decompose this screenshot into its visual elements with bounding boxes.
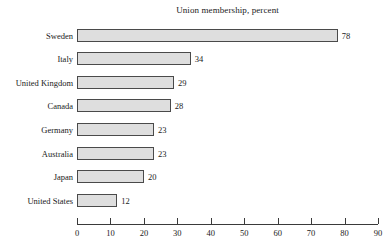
category-label-canada: Canada xyxy=(0,99,73,113)
bar-value-united-kingdom: 29 xyxy=(178,76,187,90)
bar-row: Sweden78 xyxy=(0,29,390,43)
category-label-italy: Italy xyxy=(0,52,73,66)
bar-value-sweden: 78 xyxy=(342,29,351,43)
bar-chart: Union membership, percent Sweden78Italy3… xyxy=(0,0,390,250)
bar-row: Italy34 xyxy=(0,52,390,66)
bar-united-kingdom xyxy=(77,76,174,89)
category-label-sweden: Sweden xyxy=(0,29,73,43)
category-label-japan: Japan xyxy=(0,170,73,184)
bar-australia xyxy=(77,147,154,160)
bar-value-japan: 20 xyxy=(148,170,157,184)
bar-value-australia: 23 xyxy=(158,147,167,161)
category-label-australia: Australia xyxy=(0,147,73,161)
bar-row: Germany23 xyxy=(0,123,390,137)
bar-value-italy: 34 xyxy=(195,52,204,66)
bar-row: Australia23 xyxy=(0,147,390,161)
bar-row: United States12 xyxy=(0,194,390,208)
bar-sweden xyxy=(77,29,338,42)
bar-row: United Kingdom29 xyxy=(0,76,390,90)
bar-japan xyxy=(77,170,144,183)
bar-value-canada: 28 xyxy=(175,99,184,113)
bar-italy xyxy=(77,52,191,65)
bar-canada xyxy=(77,99,171,112)
category-label-united-kingdom: United Kingdom xyxy=(0,76,73,90)
bar-united-states xyxy=(77,194,117,207)
bar-value-united-states: 12 xyxy=(121,194,130,208)
plot-area: Sweden78Italy34United Kingdom29Canada28G… xyxy=(0,0,390,250)
category-label-germany: Germany xyxy=(0,123,73,137)
bar-row: Japan20 xyxy=(0,170,390,184)
bar-value-germany: 23 xyxy=(158,123,167,137)
category-label-united-states: United States xyxy=(0,194,73,208)
bar-germany xyxy=(77,123,154,136)
bar-row: Canada28 xyxy=(0,99,390,113)
